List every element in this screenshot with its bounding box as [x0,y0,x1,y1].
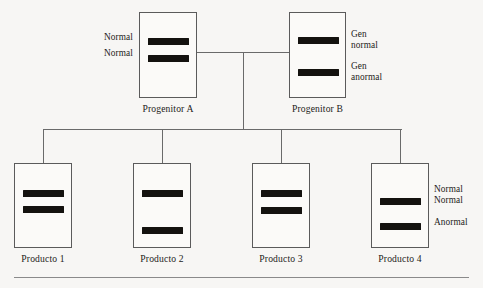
band-upper [261,190,302,197]
producto-4-label-1a: Normal [434,184,463,195]
progenitor-b-label-1a: Gen [351,29,367,40]
pedigree-diagram: Normal Normal Progenitor A Gen normal Ge… [0,0,483,288]
producto-1-box [14,163,72,248]
descent-line [243,52,244,129]
producto-3-box [252,163,310,248]
producto-4-label-1b: Normal [434,195,463,206]
sibship-line [43,129,402,130]
producto-4-label-2: Anormal [434,217,468,228]
producto-4-box [371,163,429,248]
progenitor-a-label-2: Normal [78,48,133,59]
progenitor-b-label-1b: normal [351,40,378,51]
producto-3-caption: Producto 3 [247,253,315,264]
offspring-drop-2 [162,129,163,163]
offspring-drop-3 [281,129,282,163]
band-lower [380,223,421,230]
progenitor-a-caption: Progenitor A [139,103,197,114]
footer-rule [14,277,469,278]
producto-2-box [133,163,191,248]
band-lower [261,207,302,214]
band-gen-normal [298,37,339,44]
offspring-drop-4 [400,129,401,163]
progenitor-b-box [289,12,346,98]
progenitor-a-box [139,12,197,98]
band-upper [380,198,421,205]
progenitor-b-label-2b: anormal [351,72,382,83]
producto-2-caption: Producto 2 [128,253,196,264]
band-gen-anormal [298,69,339,76]
band-normal-lower [148,55,189,62]
producto-1-caption: Producto 1 [9,253,77,264]
band-lower [23,206,64,213]
band-lower [142,227,183,234]
progenitor-a-label-1: Normal [78,32,133,43]
progenitor-b-caption: Progenitor B [284,103,351,114]
producto-4-caption: Producto 4 [366,253,434,264]
band-normal-upper [148,38,189,45]
band-upper [23,190,64,197]
offspring-drop-1 [43,129,44,163]
progenitor-b-label-2a: Gen [351,61,367,72]
band-upper [142,190,183,197]
